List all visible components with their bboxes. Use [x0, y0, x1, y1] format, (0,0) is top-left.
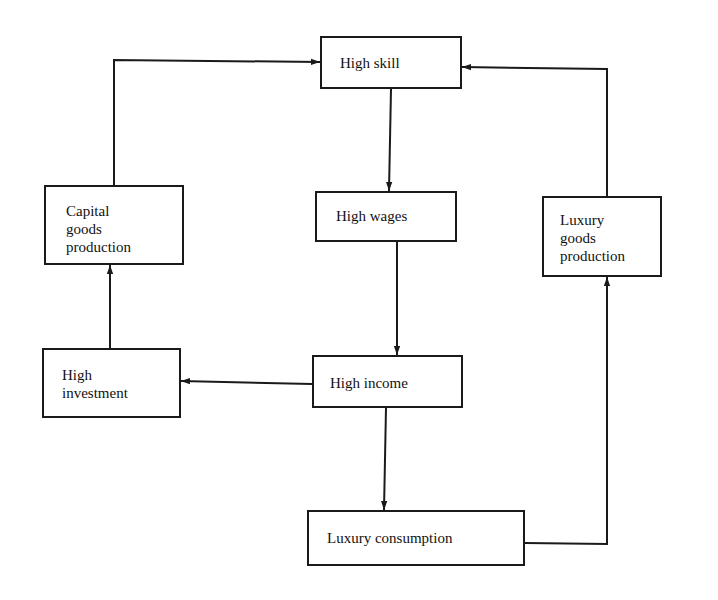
node-label: Luxury consumption — [327, 529, 452, 547]
node-label: High investment — [62, 366, 128, 402]
node-capital-goods-production: Capital goods production — [44, 185, 184, 265]
node-label: Luxury goods production — [560, 211, 625, 265]
node-label: High income — [330, 374, 408, 392]
node-high-wages: High wages — [315, 191, 457, 242]
node-label: High skill — [340, 54, 400, 72]
node-luxury-goods-production: Luxury goods production — [542, 196, 662, 277]
edge-high-income-to-luxury-consumption — [384, 408, 386, 510]
edge-luxury-goods-to-high-skill — [462, 67, 607, 196]
node-high-investment: High investment — [42, 348, 181, 418]
edge-luxury-consumption-to-luxury-goods — [525, 277, 607, 544]
node-high-skill: High skill — [320, 36, 462, 89]
node-luxury-consumption: Luxury consumption — [307, 510, 525, 566]
edge-high-skill-to-high-wages — [389, 89, 391, 191]
node-label: Capital goods production — [66, 202, 131, 256]
node-high-income: High income — [312, 355, 463, 408]
edge-capital-goods-to-high-skill — [114, 60, 320, 185]
edge-high-income-to-high-investment — [181, 381, 312, 384]
node-label: High wages — [336, 207, 407, 225]
